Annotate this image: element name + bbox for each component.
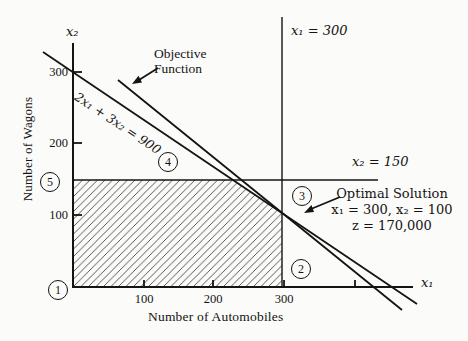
- corner-point-5: 5: [40, 172, 60, 192]
- plot-canvas: [0, 0, 468, 341]
- x-axis-symbol: x₁: [421, 275, 434, 290]
- y-axis-symbol: x₂: [66, 24, 79, 39]
- x-tick-label-200: 200: [204, 292, 223, 307]
- corner-point-4: 4: [158, 152, 178, 172]
- feasible-region: [73, 180, 282, 287]
- corner-point-1: 1: [48, 280, 68, 300]
- x-tick-label-100: 100: [135, 292, 154, 307]
- y-tick-label-300: 300: [38, 65, 68, 80]
- corner-point-3: 3: [292, 186, 312, 206]
- x1-constraint-label: x₁ = 300: [291, 23, 348, 38]
- objective-function-label: Objective Function: [154, 46, 206, 76]
- x-tick-label-300: 300: [275, 292, 294, 307]
- x2-constraint-label: x₂ = 150: [352, 154, 409, 169]
- x-axis-title: Number of Automobiles: [148, 309, 283, 324]
- corner-point-2: 2: [291, 259, 311, 279]
- optimal-solution-label: Optimal Solution x₁ = 300, x₂ = 100 z = …: [330, 186, 454, 234]
- y-axis-title: Number of Wagons: [20, 97, 35, 201]
- y-tick-label-100: 100: [38, 208, 68, 223]
- lp-graph-figure: x₂ x₁ x₁ = 300 x₂ = 150 2x₁ + 3x₂ = 900 …: [0, 0, 468, 341]
- y-tick-label-200: 200: [38, 136, 68, 151]
